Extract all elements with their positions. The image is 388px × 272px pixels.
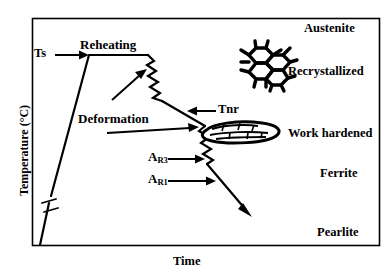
thermomechanical-processing-diagram: Temperature (°C) Time Ts Reheating Defor… [0,0,388,272]
ar3-subscript: R3 [157,155,167,165]
ar3-label: AR3 [148,150,167,165]
phase-label-ferrite: Ferrite [320,167,357,180]
phase-label-pearlite: Pearlite [317,226,359,239]
ar3-base: A [148,149,157,164]
start-temperature-label: Ts [34,47,46,60]
ar1-label: AR1 [148,172,167,187]
elongated-grains-icon [202,122,279,143]
reheating-label: Reheating [80,38,136,51]
ar1-subscript: R1 [157,177,167,187]
phase-label-work-hardened: Work hardened [288,127,372,140]
phase-label-recrystallized: Recrystallized [288,65,364,78]
y-axis-label: Temperature (°C) [18,105,30,196]
deformation-label: Deformation [78,112,149,125]
phase-label-austenite: Austenite [304,22,355,35]
x-axis-label: Time [173,255,201,268]
ar1-base: A [148,171,157,186]
tnr-label: Tnr [218,103,239,116]
